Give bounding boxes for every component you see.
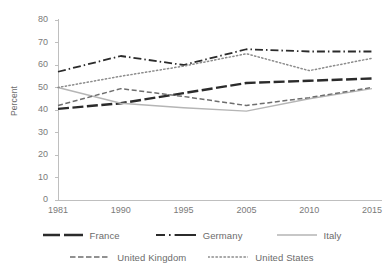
legend-swatch-united-kingdom xyxy=(70,252,110,262)
legend-label-germany: Germany xyxy=(203,230,243,241)
plot-svg xyxy=(0,0,384,221)
legend-label-united-kingdom: United Kingdom xyxy=(117,252,186,263)
legend-swatch-italy xyxy=(277,230,317,240)
legend-item-united-states[interactable]: United States xyxy=(208,252,313,263)
legend-swatch-germany xyxy=(156,230,196,240)
legend: France Germany Italy United Kingdom xyxy=(0,224,384,276)
legend-item-france[interactable]: France xyxy=(43,230,120,241)
legend-label-united-states: United States xyxy=(255,252,313,263)
series-line-france xyxy=(58,79,372,109)
legend-item-germany[interactable]: Germany xyxy=(156,230,243,241)
line-chart: Percent 01020304050607080 19811990199520… xyxy=(0,0,384,276)
legend-swatch-united-states xyxy=(208,252,248,262)
legend-row-1: France Germany Italy xyxy=(0,224,384,246)
series-line-italy xyxy=(58,88,372,112)
legend-swatch-france xyxy=(43,230,83,240)
legend-label-italy: Italy xyxy=(324,230,342,241)
legend-item-united-kingdom[interactable]: United Kingdom xyxy=(70,252,186,263)
plot-area: Percent 01020304050607080 19811990199520… xyxy=(0,0,384,221)
legend-item-italy[interactable]: Italy xyxy=(277,230,342,241)
legend-label-france: France xyxy=(90,230,120,241)
series-lines xyxy=(58,49,372,111)
legend-row-2: United Kingdom United States xyxy=(0,246,384,268)
series-line-united-states xyxy=(58,54,372,88)
